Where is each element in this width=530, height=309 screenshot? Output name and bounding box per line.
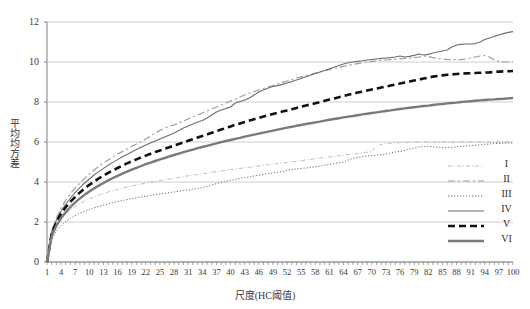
chart-legend: IIIIIIIVVVI — [446, 156, 524, 246]
y-tick-label: 4 — [17, 176, 39, 187]
legend-swatch-III — [446, 188, 486, 200]
legend-swatch-II — [446, 173, 486, 185]
y-tick-label: 8 — [17, 96, 39, 107]
chart-container: 平均均方差 尺度(HC阈值) 024681012 147101316192225… — [0, 0, 530, 309]
y-axis-title: 平均均方差 — [2, 118, 18, 168]
series-line-II — [47, 56, 513, 262]
legend-item-II[interactable]: II — [446, 171, 524, 186]
legend-label-I: I — [486, 158, 524, 169]
series-line-VI — [47, 98, 513, 262]
y-tick-label: 6 — [17, 136, 39, 147]
series-group — [47, 32, 513, 262]
series-line-III — [47, 143, 513, 262]
legend-swatch-VI — [446, 233, 486, 245]
legend-label-II: II — [486, 173, 524, 184]
legend-label-III: III — [486, 188, 524, 199]
legend-item-IV[interactable]: IV — [446, 201, 524, 216]
legend-item-I[interactable]: I — [446, 156, 524, 171]
legend-label-V: V — [486, 218, 524, 229]
legend-item-VI[interactable]: VI — [446, 231, 524, 246]
legend-swatch-I — [446, 158, 486, 170]
x-axis-title: 尺度(HC阈值) — [0, 287, 530, 302]
series-line-IV — [47, 32, 513, 262]
legend-item-V[interactable]: V — [446, 216, 524, 231]
legend-label-VI: VI — [486, 233, 524, 244]
y-tick-label: 12 — [17, 16, 39, 27]
legend-swatch-V — [446, 218, 486, 230]
y-tick-label: 2 — [17, 216, 39, 227]
x-tickmarks-group — [47, 262, 513, 265]
x-tick-label: 100 — [502, 267, 524, 277]
chart-plot-area — [0, 0, 530, 309]
legend-label-IV: IV — [486, 203, 524, 214]
legend-item-III[interactable]: III — [446, 186, 524, 201]
y-tick-label: 10 — [17, 56, 39, 67]
y-tick-label: 0 — [17, 256, 39, 267]
legend-swatch-IV — [446, 203, 486, 215]
series-line-V — [47, 71, 513, 262]
